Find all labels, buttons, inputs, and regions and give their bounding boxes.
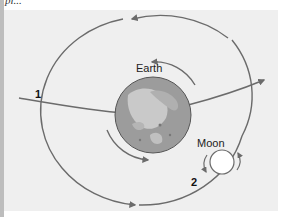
earth-label: Earth (136, 62, 162, 74)
earth-moon-diagram (0, 0, 284, 217)
earth-globe (115, 77, 191, 153)
moon-label: Moon (197, 137, 225, 149)
path-2-label: 2 (191, 176, 197, 188)
moon (210, 150, 234, 174)
trajectory-1 (19, 98, 125, 113)
path-1-label: 1 (35, 88, 41, 100)
